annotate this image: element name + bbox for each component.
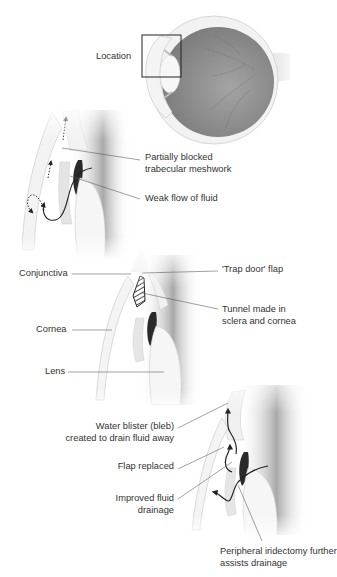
label-partially-blocked: Partially blocked trabecular meshwork: [145, 152, 231, 175]
panel-result: [192, 385, 308, 540]
label-peripheral-iridectomy: Peripheral iridectomy further assists dr…: [220, 546, 337, 569]
label-bleb-line1: Water blister (bleb): [65, 421, 174, 433]
lens-overview: [160, 55, 180, 93]
iris-section: [225, 468, 236, 516]
label-partially-blocked-line1: Partially blocked: [145, 152, 231, 164]
label-bleb-line2: created to drain fluid away: [65, 433, 174, 445]
cornea-section: [192, 418, 228, 530]
label-location: Location: [96, 51, 131, 63]
label-tunnel-line2: sclera and cornea: [222, 316, 296, 328]
panel-procedure: [96, 252, 200, 405]
panel-blocked-drainage: [22, 110, 130, 260]
flow-arrow-mid: [48, 162, 51, 178]
label-iridectomy-line1: Peripheral iridectomy further: [220, 546, 337, 558]
label-weak-flow: Weak flow of fluid: [145, 193, 218, 205]
label-bleb: Water blister (bleb) created to drain fl…: [65, 421, 174, 444]
tunnel-hatch: [133, 276, 145, 307]
label-tunnel: Tunnel made in sclera and cornea: [222, 304, 296, 327]
label-improved-drainage: Improved fluid drainage: [116, 493, 174, 516]
label-tunnel-line1: Tunnel made in: [222, 304, 296, 316]
label-partially-blocked-line2: trabecular meshwork: [145, 164, 231, 176]
label-lens: Lens: [45, 366, 65, 378]
label-iridectomy-line2: assists drainage: [220, 558, 337, 570]
cornea-section: [96, 276, 134, 400]
label-improved-line2: drainage: [116, 505, 174, 517]
iris-section: [133, 318, 144, 362]
eyeball-overview: [142, 16, 290, 144]
cornea-section: [22, 112, 62, 250]
label-improved-line1: Improved fluid: [116, 493, 174, 505]
label-cornea: Cornea: [36, 324, 67, 336]
label-flap-replaced: Flap replaced: [118, 461, 174, 473]
label-trap-door-flap: 'Trap door' flap: [222, 264, 283, 276]
label-conjunctiva: Conjunctiva: [19, 268, 68, 280]
